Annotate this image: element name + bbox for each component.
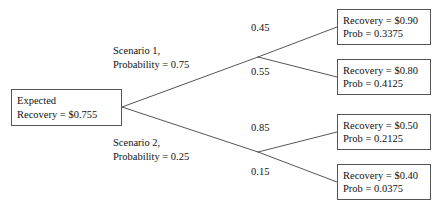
edge-node2-to-leaf3 — [258, 132, 337, 152]
outcome-node-4: Recovery = $0.40 Prob = 0.0375 — [337, 164, 431, 200]
outcome-3-probability: Prob = 0.2125 — [343, 132, 430, 145]
branch-probability-0-45: 0.45 — [250, 22, 270, 33]
scenario-1-line-1: Scenario 1, — [113, 44, 189, 58]
branch-probability-0-55: 0.55 — [250, 66, 270, 77]
scenario-1-label: Scenario 1, Probability = 0.75 — [113, 44, 189, 71]
root-node-line-1: Expected — [17, 94, 121, 107]
root-node-expected-recovery: Expected Recovery = $0.755 — [11, 89, 122, 126]
scenario-1-line-2: Probability = 0.75 — [113, 58, 189, 72]
scenario-2-line-1: Scenario 2, — [113, 136, 189, 150]
outcome-2-recovery: Recovery = $0.80 — [343, 64, 430, 77]
outcome-1-probability: Prob = 0.3375 — [343, 27, 430, 40]
decision-tree-diagram: Expected Recovery = $0.755 Scenario 1, P… — [0, 0, 432, 207]
outcome-4-probability: Prob = 0.0375 — [343, 182, 430, 195]
branch-probability-0-85: 0.85 — [250, 122, 270, 133]
outcome-4-recovery: Recovery = $0.40 — [343, 169, 430, 182]
outcome-1-recovery: Recovery = $0.90 — [343, 14, 430, 27]
outcome-node-2: Recovery = $0.80 Prob = 0.4125 — [337, 59, 431, 95]
outcome-node-1: Recovery = $0.90 Prob = 0.3375 — [337, 9, 431, 45]
outcome-3-recovery: Recovery = $0.50 — [343, 119, 430, 132]
root-node-line-2: Recovery = $0.755 — [17, 108, 121, 121]
scenario-2-label: Scenario 2, Probability = 0.25 — [113, 136, 189, 163]
outcome-2-probability: Prob = 0.4125 — [343, 77, 430, 90]
branch-probability-0-15: 0.15 — [250, 166, 270, 177]
scenario-2-line-2: Probability = 0.25 — [113, 150, 189, 164]
outcome-node-3: Recovery = $0.50 Prob = 0.2125 — [337, 114, 431, 150]
